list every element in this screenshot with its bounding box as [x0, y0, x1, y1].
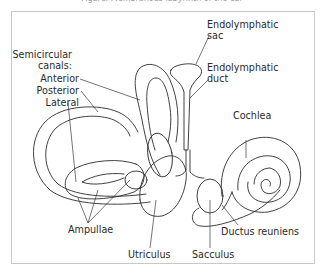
anterior-canal — [135, 64, 178, 178]
label-ampullae: Ampullae — [68, 224, 113, 235]
lateral-canal — [65, 161, 147, 199]
label-utriculus: Utriculus — [128, 249, 171, 260]
label-endolymphatic-sac: Endolymphatic sac — [207, 19, 279, 41]
label-anterior: Anterior — [40, 73, 79, 84]
utriculus-shape — [140, 156, 187, 217]
label-sacculus: Sacculus — [192, 249, 234, 260]
label-posterior: Posterior — [37, 85, 79, 96]
posterior-canal — [34, 107, 150, 204]
label-cochlea: Cochlea — [233, 110, 271, 121]
label-endolymphatic-duct: Endolymphatic duct — [207, 62, 279, 84]
cochlea-shape — [221, 137, 300, 212]
label-lateral: Lateral — [46, 97, 79, 108]
label-ductus-reuniens: Ductus reuniens — [221, 226, 299, 237]
label-semicircular-canals: Semicircular canals: — [12, 49, 72, 71]
endolymphatic-sac-and-duct — [170, 64, 204, 178]
